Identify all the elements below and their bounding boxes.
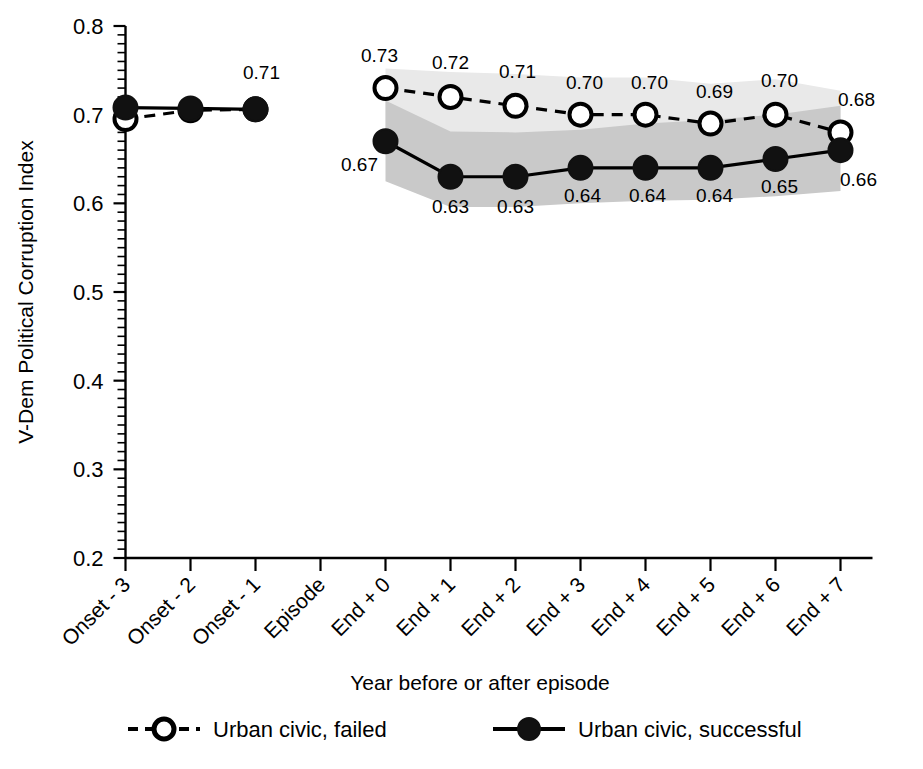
data-point-marker — [439, 165, 463, 189]
data-point-marker — [114, 96, 138, 120]
legend-label-failed: Urban civic, failed — [213, 717, 387, 742]
data-point-marker — [374, 129, 398, 153]
data-point-marker — [764, 147, 788, 171]
data-point-label: 0.65 — [761, 176, 798, 197]
x-axis-ticks — [126, 558, 841, 571]
data-point-marker — [505, 95, 527, 117]
data-point-label: 0.64 — [564, 185, 601, 206]
data-point-label: 0.64 — [696, 185, 733, 206]
data-point-marker — [179, 96, 203, 120]
data-point-marker — [244, 97, 268, 121]
y-axis-tick-label: 0.7 — [73, 103, 104, 128]
x-axis-category-label: End + 5 — [651, 573, 719, 641]
legend-label-successful: Urban civic, successful — [578, 717, 802, 742]
legend-open-circle-icon — [154, 719, 174, 739]
x-axis-category-label: End + 7 — [781, 573, 849, 641]
x-axis-category-label: Onset - 2 — [122, 573, 199, 650]
data-point-label: 0.67 — [341, 154, 378, 175]
legend-entry-successful[interactable]: Urban civic, successful — [493, 717, 802, 742]
y-axis-tick-label: 0.6 — [73, 191, 104, 216]
data-point-label: 0.70 — [761, 70, 798, 91]
data-point-label: 0.64 — [629, 185, 666, 206]
data-point-label: 0.69 — [696, 81, 733, 102]
chart-legend: Urban civic, failed Urban civic, success… — [128, 717, 802, 742]
data-point-label: 0.63 — [432, 196, 469, 217]
data-point-marker — [635, 104, 657, 126]
data-point-marker — [570, 104, 592, 126]
chart-container: 0.20.30.40.50.60.70.8 V-Dem Political Co… — [0, 0, 923, 769]
data-point-marker — [375, 77, 397, 99]
data-point-marker — [440, 86, 462, 108]
y-axis-tick-label: 0.2 — [73, 546, 104, 571]
legend-filled-circle-icon — [518, 718, 540, 740]
data-point-label: 0.68 — [838, 89, 875, 110]
data-point-label: 0.71 — [499, 61, 536, 82]
y-axis-tick-labels: 0.20.30.40.50.60.70.8 — [73, 14, 104, 571]
x-axis-category-label: End + 4 — [586, 572, 654, 640]
data-point-marker — [634, 156, 658, 180]
y-axis-tick-label: 0.4 — [73, 369, 104, 394]
x-axis-category-label: Episode — [259, 573, 329, 643]
y-axis-tick-label: 0.8 — [73, 14, 104, 39]
x-axis-title: Year before or after episode — [350, 671, 610, 694]
data-point-marker — [700, 113, 722, 135]
data-point-label: 0.73 — [361, 45, 398, 66]
data-point-marker — [504, 165, 528, 189]
data-point-label: 0.66 — [840, 169, 877, 190]
y-axis-tick-label: 0.3 — [73, 457, 104, 482]
x-axis-category-label: Onset - 1 — [187, 573, 264, 650]
data-point-label: 0.63 — [497, 196, 534, 217]
legend-entry-failed[interactable]: Urban civic, failed — [128, 717, 387, 742]
x-axis-category-label: End + 2 — [456, 573, 524, 641]
data-point-marker — [829, 138, 853, 162]
corruption-index-line-chart: 0.20.30.40.50.60.70.8 V-Dem Political Co… — [0, 0, 923, 769]
data-point-label: 0.70 — [566, 72, 603, 93]
x-axis-category-label: End + 0 — [326, 573, 394, 641]
x-axis-category-labels: Onset - 3Onset - 2Onset - 1EpisodeEnd + … — [57, 572, 849, 650]
x-axis-category-label: End + 3 — [521, 573, 589, 641]
data-point-label: 0.70 — [631, 72, 668, 93]
data-point-marker — [569, 156, 593, 180]
x-axis-category-label: End + 6 — [716, 573, 784, 641]
data-point-marker — [699, 156, 723, 180]
data-point-label: 0.72 — [432, 52, 469, 73]
x-axis-category-label: End + 1 — [391, 573, 459, 641]
data-point-marker — [765, 104, 787, 126]
data-point-label: 0.71 — [243, 62, 280, 83]
y-axis-tick-label: 0.5 — [73, 280, 104, 305]
y-axis-title: V-Dem Political Corruption Index — [14, 140, 37, 444]
x-axis-category-label: Onset - 3 — [57, 573, 134, 650]
